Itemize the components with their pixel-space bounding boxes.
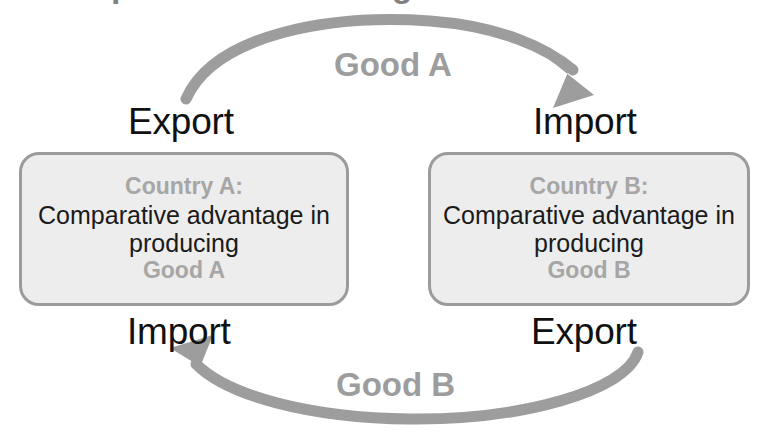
- country-b-good: Good B: [547, 257, 630, 284]
- arc-label-good-a: Good A: [334, 46, 452, 84]
- flow-label-import-country-b: Import: [533, 101, 637, 143]
- country-a-heading: Country A:: [125, 174, 243, 200]
- country-b-heading: Country B:: [530, 174, 649, 200]
- flow-label-export-country-a: Export: [128, 101, 234, 143]
- flow-label-import-country-a: Import: [127, 311, 231, 353]
- country-b-body: Comparative advantage in producing: [431, 200, 747, 257]
- arc-label-good-b: Good B: [336, 366, 455, 404]
- country-a-good: Good A: [143, 257, 225, 284]
- country-a-body: Comparative advantage in producing: [22, 200, 346, 257]
- flow-label-export-country-b: Export: [531, 311, 637, 353]
- country-a-box: Country A: Comparative advantage in prod…: [19, 152, 349, 306]
- country-b-box: Country B: Comparative advantage in prod…: [428, 152, 750, 306]
- diagram-canvas: Comparative Advantage and Trade Export I…: [0, 0, 769, 447]
